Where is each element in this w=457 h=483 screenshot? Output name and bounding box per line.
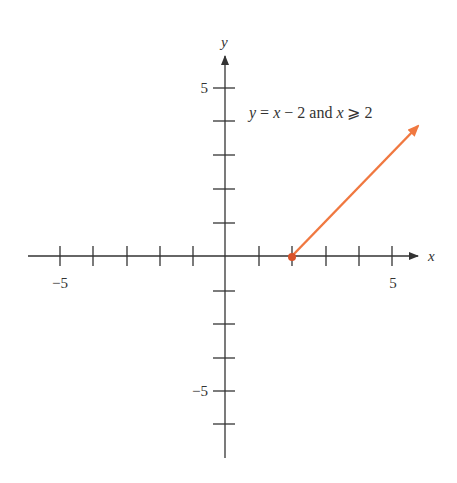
y-axis-label: y — [219, 34, 228, 50]
x-axis-label: x — [427, 248, 435, 264]
y-tick-label-neg5: −5 — [192, 383, 208, 399]
coordinate-plane: −5 5 5 −5 x y y = x − 2 and x ⩾ 2 — [0, 0, 457, 483]
start-point-dot — [288, 253, 296, 261]
y-tick-label-5: 5 — [201, 80, 209, 96]
x-tick-label-5: 5 — [389, 275, 397, 291]
x-tick-label-neg5: −5 — [52, 275, 68, 291]
equation-annotation: y = x − 2 and x ⩾ 2 — [247, 104, 372, 122]
ray-y-equals-x-minus-2 — [292, 126, 418, 256]
